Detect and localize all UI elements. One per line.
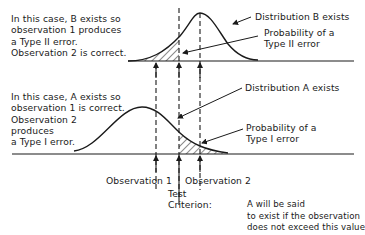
prob-type1-leader: [202, 129, 243, 143]
criterion-description: A will be said to exist if the observati…: [247, 199, 365, 234]
case-a-line-4: produces: [11, 125, 125, 136]
distribution-b-label: Distribution B exists: [255, 11, 350, 22]
case-a-explanation: In this case, A exists so observation 1 …: [11, 91, 125, 147]
distribution-a-label: Distribution A exists: [245, 82, 339, 93]
dist-a-leader: [178, 88, 242, 118]
case-a-line-5: a Type I error.: [11, 136, 125, 147]
case-b-line-4: Observation 2 is correct.: [11, 47, 126, 58]
observation-1-label: Observation 1: [106, 175, 172, 186]
observation-2-label: Observation 2: [185, 175, 251, 186]
prob-type1-label: Probability of a Type I error: [246, 122, 317, 145]
case-a-line-3: Observation 2: [11, 114, 125, 125]
dist-b-leader: [233, 17, 251, 24]
case-b-explanation: In this case, B exists so observation 1 …: [11, 13, 126, 58]
prob-type2-label: Probability of a Type II error: [264, 27, 335, 50]
case-b-line-1: In this case, B exists so: [11, 13, 126, 24]
distribution-b-curve: [128, 13, 258, 61]
case-a-line-2: observation 1 is correct.: [11, 102, 125, 113]
distribution-b-shaded-area: [128, 13, 200, 61]
case-b-line-3: a Type II error.: [11, 36, 126, 47]
prob-type2-leader: [183, 36, 258, 53]
case-a-line-1: In this case, A exists so: [11, 91, 125, 102]
distribution-a-shaded-area: [142, 107, 225, 154]
case-b-line-2: observation 1 produces: [11, 24, 126, 35]
test-criterion-label: Test Criterion:: [168, 188, 212, 211]
